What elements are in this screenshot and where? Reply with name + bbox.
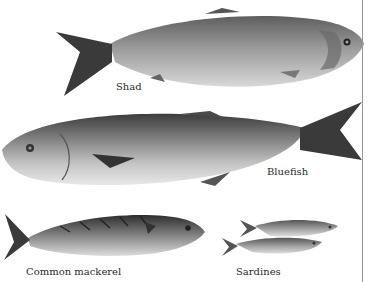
page-margin-rule: [362, 0, 363, 282]
bluefish-label: Bluefish: [267, 166, 308, 177]
common-mackerel-photo: [4, 214, 205, 260]
shad-label: Shad: [116, 81, 142, 92]
sardines-photo: [222, 220, 338, 256]
fish-figure: Shad Bluefish Common mackerel Sardines: [0, 0, 370, 282]
sardines-label: Sardines: [236, 266, 281, 277]
shad-photo: [56, 8, 364, 96]
common-mackerel-label: Common mackerel: [26, 266, 121, 277]
fish-illustrations: [0, 0, 370, 282]
